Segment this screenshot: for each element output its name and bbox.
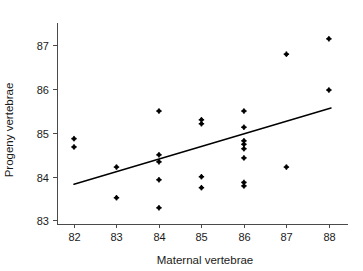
y-tick-label: 87: [37, 40, 49, 52]
x-axis-title: Maternal vertebrae: [157, 254, 254, 266]
x-tick-label: 82: [68, 231, 80, 243]
x-tick-label: 84: [153, 231, 165, 243]
data-point: [241, 108, 246, 113]
data-point: [114, 195, 119, 200]
data-point: [284, 51, 289, 56]
data-point: [114, 164, 119, 169]
x-tick-label: 83: [110, 231, 122, 243]
y-tick-label: 84: [37, 172, 49, 184]
scatter-chart: 8384858687 82838485868788 Maternal verte…: [0, 0, 363, 271]
x-axis-ticks: 82838485868788: [68, 224, 335, 243]
x-tick-label: 88: [323, 231, 335, 243]
data-point: [156, 152, 161, 157]
y-tick-label: 86: [37, 84, 49, 96]
data-point: [241, 125, 246, 130]
y-tick-label: 83: [37, 215, 49, 227]
x-tick-label: 85: [195, 231, 207, 243]
x-tick-label: 87: [280, 231, 292, 243]
data-point: [241, 183, 246, 188]
data-point: [71, 136, 76, 141]
data-point: [156, 177, 161, 182]
data-point: [199, 121, 204, 126]
data-point: [199, 174, 204, 179]
data-point: [326, 87, 331, 92]
data-point: [241, 155, 246, 160]
data-point: [199, 185, 204, 190]
data-point: [156, 108, 161, 113]
data-points-group: [71, 36, 331, 210]
data-point: [156, 205, 161, 210]
data-point: [241, 146, 246, 151]
y-tick-label: 85: [37, 128, 49, 140]
data-point: [326, 36, 331, 41]
y-axis-title: Progeny vertebrae: [3, 83, 15, 178]
data-point: [284, 164, 289, 169]
plot-area: 8384858687 82838485868788 Maternal verte…: [0, 0, 363, 271]
x-tick-label: 86: [238, 231, 250, 243]
data-point: [71, 144, 76, 149]
y-axis-ticks: 8384858687: [37, 40, 57, 227]
